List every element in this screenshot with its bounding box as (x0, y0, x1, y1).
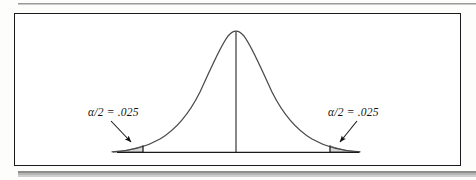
left-tail-alpha-label: α/2 = .025 (88, 106, 139, 118)
figure-border-box (14, 13, 461, 166)
right-tail-alpha-label: α/2 = .025 (328, 106, 379, 118)
bottom-horizontal-rule (18, 171, 476, 177)
figure-page: α/2 = .025 α/2 = .025 (0, 0, 476, 180)
top-horizontal-rule (18, 3, 476, 5)
